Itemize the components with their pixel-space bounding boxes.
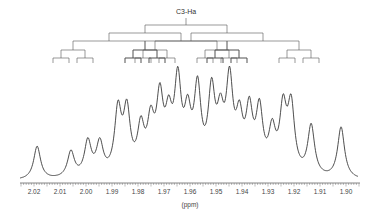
nmr-figure: C3-Ha 2.022.012.001.991.981.971.961.951.… xyxy=(0,0,378,216)
x-tick-label: 2.02 xyxy=(28,188,41,195)
x-axis xyxy=(20,183,360,187)
coupling-tree xyxy=(53,18,319,63)
spectrum-trace xyxy=(20,66,358,178)
x-tick-label: 1.90 xyxy=(340,188,353,195)
x-tick-label: 2.00 xyxy=(80,188,93,195)
x-tick-label: 1.96 xyxy=(184,188,197,195)
x-tick-label: 1.99 xyxy=(106,188,119,195)
x-tick-label: 1.97 xyxy=(158,188,171,195)
x-tick-label: 1.91 xyxy=(314,188,327,195)
tree-label: C3-Ha xyxy=(176,8,196,15)
spectrum-plot xyxy=(0,0,378,216)
x-tick-label: 1.94 xyxy=(236,188,249,195)
x-tick-label: 1.95 xyxy=(210,188,223,195)
x-tick-label: 2.01 xyxy=(54,188,67,195)
x-tick-label: 1.93 xyxy=(262,188,275,195)
x-tick-label: 1.98 xyxy=(132,188,145,195)
x-tick-label: 1.92 xyxy=(288,188,301,195)
x-axis-title: (ppm) xyxy=(182,201,199,208)
